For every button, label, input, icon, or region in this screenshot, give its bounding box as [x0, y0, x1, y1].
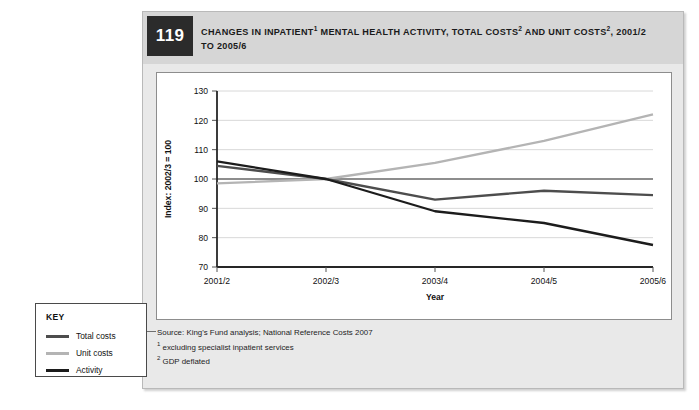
footnote-1-text: excluding specialist inpatient services [160, 342, 293, 351]
legend-label-unit-costs: Unit costs [76, 348, 113, 358]
x-tick-label-2004/5: 2004/5 [531, 276, 558, 286]
figure-header: 119 CHANGES IN INPATIENT1 MENTAL HEALTH … [143, 12, 683, 64]
y-tick-label-90: 90 [198, 204, 208, 214]
figure-title-part-4: , 2001/2 [611, 27, 646, 37]
legend-swatch-activity [46, 369, 69, 372]
figure-title-part-3: AND UNIT COSTS [522, 27, 606, 37]
legend-item-unit-costs: Unit costs [46, 348, 113, 358]
legend-title: KEY [46, 312, 65, 322]
figure-panel: 119 CHANGES IN INPATIENT1 MENTAL HEALTH … [142, 11, 684, 389]
y-axis-title: Index: 2002/3 = 100 [163, 140, 173, 218]
figure-title-line-2: TO 2005/6 [201, 41, 247, 51]
y-tick-label-120: 120 [194, 116, 209, 126]
y-tick-label-100: 100 [194, 174, 209, 184]
footnote-1: 1 excluding specialist inpatient service… [157, 339, 673, 353]
legend-label-total-costs: Total costs [76, 331, 116, 341]
source-block: Source: King's Fund analysis; National R… [157, 327, 673, 367]
y-tick-label-110: 110 [194, 145, 208, 155]
y-tick-label-70: 70 [198, 262, 208, 272]
legend-swatch-total-costs [46, 335, 69, 338]
legend-label-activity: Activity [76, 365, 103, 375]
plot-card: 708090100110120130Index: 2002/3 = 100200… [156, 72, 672, 320]
x-tick-label-2005/6: 2005/6 [640, 276, 667, 286]
x-tick-label-2002/3: 2002/3 [313, 276, 340, 286]
key-connector-line [146, 331, 156, 332]
footnote-2-text: GDP deflated [160, 356, 209, 365]
y-tick-label-80: 80 [198, 233, 208, 243]
source-line: Source: King's Fund analysis; National R… [157, 327, 673, 339]
x-axis-title: Year [426, 292, 445, 302]
chart-legend: KEY Total costs Unit costs Activity [35, 303, 147, 377]
x-tick-label-2003/4: 2003/4 [422, 276, 449, 286]
legend-swatch-unit-costs [46, 352, 69, 355]
x-tick-label-2001/2: 2001/2 [204, 276, 231, 286]
footnote-2: 2 GDP deflated [157, 353, 673, 367]
figure-title-part-1: CHANGES IN INPATIENT [201, 27, 314, 37]
legend-item-total-costs: Total costs [46, 331, 116, 341]
y-tick-label-130: 130 [194, 86, 209, 96]
figure-title: CHANGES IN INPATIENT1 MENTAL HEALTH ACTI… [201, 22, 671, 53]
figure-number-badge: 119 [147, 16, 193, 56]
line-chart: 708090100110120130Index: 2002/3 = 100200… [157, 73, 671, 319]
figure-title-part-2: MENTAL HEALTH ACTIVITY, TOTAL COSTS [318, 27, 519, 37]
legend-item-activity: Activity [46, 365, 103, 375]
